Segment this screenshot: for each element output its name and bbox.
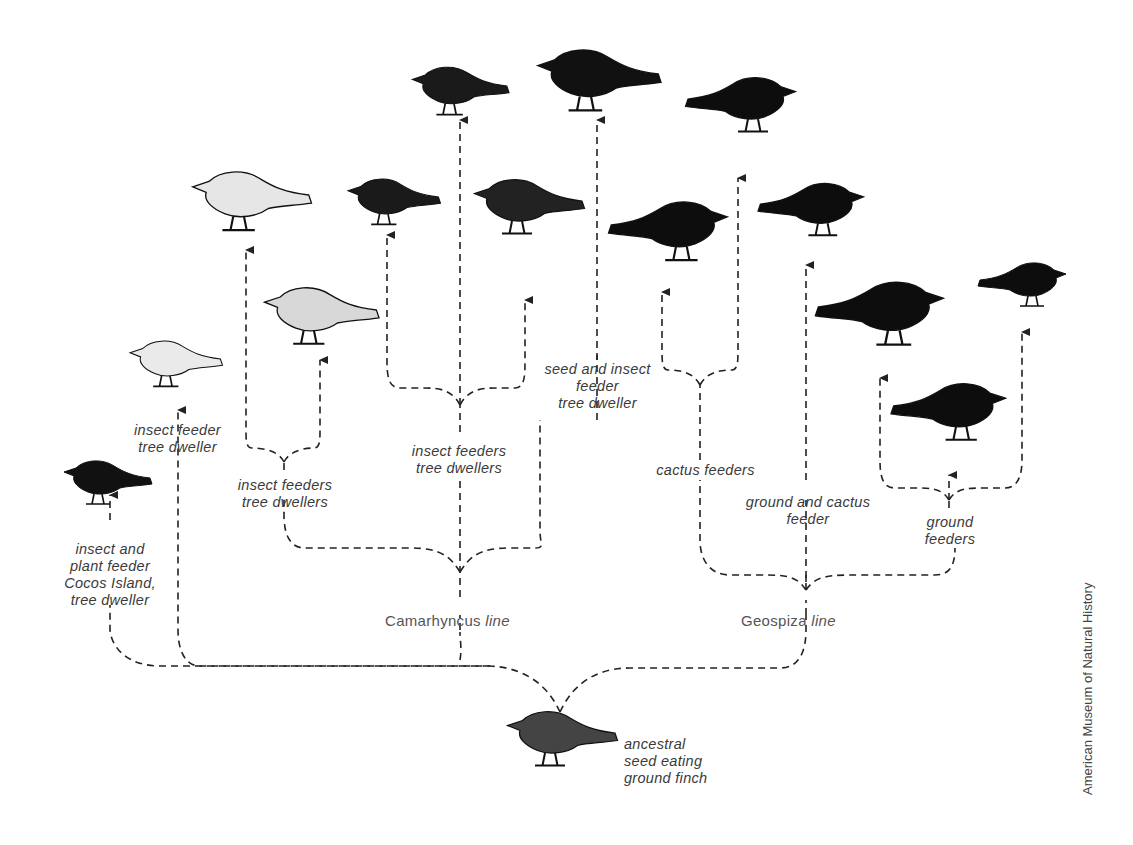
phylogeny-diagram: insect and plant feeder Cocos Island, tr… bbox=[0, 0, 1133, 845]
bird-icon bbox=[816, 282, 944, 344]
label-ground-feeders: ground feeders bbox=[915, 514, 985, 548]
bird-icon bbox=[609, 202, 728, 260]
bird-icon bbox=[193, 172, 312, 230]
bird-icon bbox=[538, 50, 661, 110]
bird-icon bbox=[475, 180, 585, 234]
bird-icon bbox=[412, 67, 509, 114]
credit-text: American Museum of Natural History bbox=[1080, 583, 1095, 795]
bird-icon bbox=[265, 288, 379, 344]
label-cocos-finch: insect and plant feeder Cocos Island, tr… bbox=[50, 541, 170, 609]
label-seed-insect-feeder: seed and insect feeder tree dweller bbox=[530, 361, 665, 412]
bird-icon bbox=[978, 263, 1066, 306]
label-insect-feeders-left: insect feeders tree dwellers bbox=[225, 477, 345, 511]
label-ground-cactus-feeder: ground and cactus feeder bbox=[733, 494, 883, 528]
bird-icon bbox=[686, 78, 796, 132]
bird-icon bbox=[130, 341, 222, 386]
bird-icon bbox=[508, 712, 618, 766]
label-insect-feeders-center: insect feeders tree dwellers bbox=[398, 443, 520, 477]
label-cactus-feeders: cactus feeders bbox=[643, 462, 768, 479]
camarhyncus-line-label: Camarhyncus line bbox=[385, 612, 510, 629]
label-insect-feeder-single: insect feeder tree dweller bbox=[120, 422, 235, 456]
bird-icon bbox=[891, 384, 1005, 440]
bird-icon bbox=[758, 183, 864, 235]
line-name: Camarhyncus bbox=[385, 612, 481, 629]
label-ancestral-finch: ancestral seed eating ground finch bbox=[624, 736, 734, 787]
bird-icon bbox=[348, 179, 440, 224]
bird-icon bbox=[64, 461, 152, 504]
line-name: Geospiza bbox=[741, 612, 807, 629]
geospiza-line-label: Geospiza line bbox=[741, 612, 836, 629]
line-suffix: line bbox=[485, 612, 510, 629]
line-suffix: line bbox=[811, 612, 836, 629]
